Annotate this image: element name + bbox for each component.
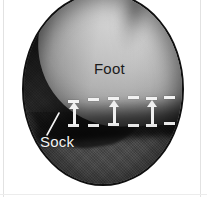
page-rule-right bbox=[200, 0, 201, 197]
figure-container: Foot Sock bbox=[0, 0, 207, 197]
circular-photo-inset bbox=[22, 0, 184, 186]
page-rule-left bbox=[3, 0, 4, 197]
page-rule-bottom bbox=[0, 194, 207, 195]
